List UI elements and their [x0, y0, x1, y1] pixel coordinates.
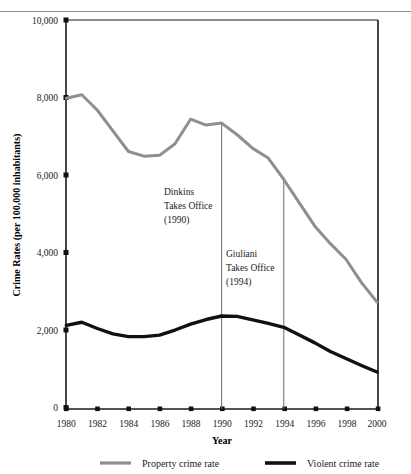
x-tick-label: 1988	[182, 419, 201, 429]
x-tick-label: 1984	[119, 419, 138, 429]
y-axis-title: Crime Rates (per 100,000 inhabitants)	[11, 134, 23, 297]
annotation-giuliani-line3: (1994)	[226, 277, 251, 288]
x-tick-label: 1990	[213, 419, 232, 429]
x-tick-label: 1980	[57, 419, 76, 429]
annotation-giuliani: Giuliani Takes Office (1994)	[226, 249, 274, 288]
crime-rates-chart: 10,000 8,000 6,000 4,000 2,000 0 1980 19…	[0, 0, 411, 474]
y-tick-label: 8,000	[37, 93, 59, 103]
y-tick-label: 0	[53, 403, 58, 413]
annotation-giuliani-line1: Giuliani	[226, 249, 257, 259]
x-tick-label: 1992	[244, 419, 263, 429]
chart-canvas: 10,000 8,000 6,000 4,000 2,000 0 1980 19…	[0, 0, 411, 474]
annotation-dinkins: Dinkins Takes Office (1990)	[164, 187, 212, 226]
y-tick-label: 10,000	[32, 16, 58, 26]
annotation-dinkins-line2: Takes Office	[164, 201, 212, 211]
x-tick-label: 1986	[150, 419, 169, 429]
x-tick-label: 2000	[368, 419, 387, 429]
x-tick-label: 1998	[338, 419, 357, 429]
legend: Property crime rate Violent crime rate	[100, 458, 380, 469]
y-tick-label: 2,000	[37, 326, 59, 336]
x-tick-label: 1996	[306, 419, 325, 429]
y-tick-label: 4,000	[37, 248, 59, 258]
annotation-dinkins-line1: Dinkins	[164, 187, 194, 197]
legend-label-property: Property crime rate	[142, 458, 220, 469]
annotation-giuliani-line2: Takes Office	[226, 263, 274, 273]
x-tick-label: 1994	[275, 419, 294, 429]
annotation-dinkins-line3: (1990)	[164, 215, 189, 226]
y-tick-label: 6,000	[37, 171, 59, 181]
x-axis-title: Year	[212, 435, 233, 446]
x-tick-label: 1982	[88, 419, 107, 429]
legend-label-violent: Violent crime rate	[307, 458, 380, 469]
